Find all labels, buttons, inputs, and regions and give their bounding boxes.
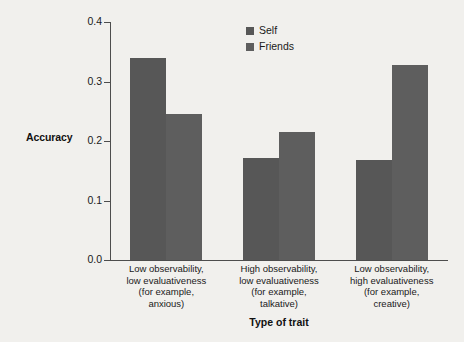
category-label-line: high evaluativeness xyxy=(336,275,447,287)
bar-friends-0 xyxy=(166,114,202,260)
legend-label: Friends xyxy=(259,41,294,52)
bar-friends-1 xyxy=(279,132,315,260)
bar-self-2 xyxy=(356,160,392,260)
chart-legend: SelfFriends xyxy=(246,24,294,53)
legend-entry-friends[interactable]: Friends xyxy=(246,40,294,53)
y-tick-label: 0.1 xyxy=(76,194,102,206)
x-axis-spine xyxy=(110,260,448,261)
category-label-line: High observability, xyxy=(224,263,335,275)
y-tick-mark xyxy=(104,201,110,202)
category-label-line: low evaluativeness xyxy=(111,275,222,287)
legend-label: Self xyxy=(259,25,277,36)
category-label-line: creative) xyxy=(336,298,447,310)
category-label-line: (for example, xyxy=(336,286,447,298)
category-label-line: Low observability, xyxy=(111,263,222,275)
category-label-line: talkative) xyxy=(224,298,335,310)
legend-swatch-icon xyxy=(246,27,254,35)
bar-self-1 xyxy=(243,158,279,260)
y-tick-mark xyxy=(104,141,110,142)
y-tick-label: 0.2 xyxy=(76,134,102,146)
y-axis-title: Accuracy xyxy=(26,131,72,143)
y-tick-label: 0.0 xyxy=(76,253,102,265)
bars-container xyxy=(110,22,448,260)
category-label-2: Low observability,high evaluativeness(fo… xyxy=(335,263,448,315)
legend-swatch-icon xyxy=(246,43,254,51)
legend-entry-self[interactable]: Self xyxy=(246,24,294,37)
y-axis-tick-labels: 0.00.10.20.30.4 xyxy=(76,0,102,342)
x-axis-category-labels: Low observability,low evaluativeness(for… xyxy=(110,263,448,315)
category-label-line: (for example, xyxy=(224,286,335,298)
bar-chart-figure: Accuracy 0.00.10.20.30.4 SelfFriends Low… xyxy=(0,0,464,342)
y-tick-label: 0.3 xyxy=(76,75,102,87)
category-label-line: (for example, xyxy=(111,286,222,298)
y-tick-mark xyxy=(104,260,110,261)
category-label-1: High observability,low evaluativeness(fo… xyxy=(223,263,336,315)
y-tick-label: 0.4 xyxy=(76,15,102,27)
y-tick-mark xyxy=(104,82,110,83)
category-label-line: low evaluativeness xyxy=(224,275,335,287)
category-label-0: Low observability,low evaluativeness(for… xyxy=(110,263,223,315)
y-tick-mark xyxy=(104,22,110,23)
x-axis-title: Type of trait xyxy=(110,316,448,328)
bar-self-0 xyxy=(130,58,166,260)
category-label-line: anxious) xyxy=(111,298,222,310)
category-label-line: Low observability, xyxy=(336,263,447,275)
bar-friends-2 xyxy=(392,65,428,260)
